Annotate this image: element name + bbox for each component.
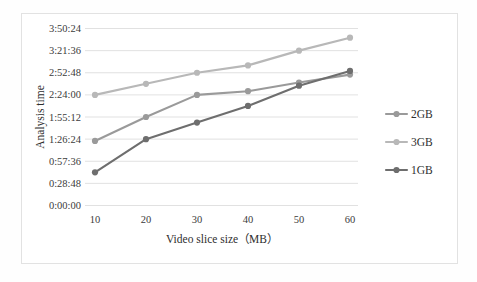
legend-marker-1gb [393,167,399,173]
series-line-2gb [95,75,350,141]
data-point-2gb [143,114,149,120]
x-axis-tick-label: 20 [141,214,152,225]
x-axis-tick-label: 10 [90,214,101,225]
y-axis-tick-label: 3:50:24 [49,23,82,34]
x-axis-title: Video slice size（MB） [166,233,278,245]
y-axis-tick-label: 3:21:36 [49,45,81,56]
line-chart-svg: 3:50:243:21:362:52:482:24:001:55:121:26:… [0,0,477,282]
y-axis-tick-label: 1:26:24 [49,134,82,145]
y-axis-title: Analysis time [34,85,47,149]
data-point-2gb [245,88,251,94]
data-point-3gb [296,48,302,54]
x-axis-tick-label: 40 [243,214,254,225]
data-point-1gb [347,68,353,74]
y-axis-tick-label: 0:00:00 [49,200,81,211]
data-point-1gb [245,103,251,109]
data-point-1gb [92,169,98,175]
data-point-3gb [143,81,149,87]
x-axis-tick-label: 60 [345,214,356,225]
data-point-3gb [92,92,98,98]
legend-label-1gb: 1GB [411,164,433,176]
data-point-1gb [143,136,149,142]
series-lines-group [95,38,350,173]
data-point-1gb [296,83,302,89]
plot-wrapper: 3:50:243:21:362:52:482:24:001:55:121:26:… [0,0,477,282]
data-point-3gb [194,70,200,76]
chart-figure: 3:50:243:21:362:52:482:24:001:55:121:26:… [0,0,477,282]
data-point-1gb [194,119,200,125]
x-axis-tick-label: 50 [294,214,305,225]
x-axis-tick-labels: 102030405060 [90,214,356,225]
y-axis-tick-label: 1:55:12 [49,112,81,123]
legend-marker-3gb [393,139,399,145]
legend-label-2gb: 2GB [411,108,433,120]
data-point-3gb [347,35,353,41]
chart-legend: 2GB3GB1GB [386,108,433,176]
y-axis-tick-label: 0:57:36 [49,156,81,167]
data-point-2gb [92,138,98,144]
series-markers-group [92,35,353,176]
series-line-3gb [95,38,350,95]
gridlines-group [85,29,358,206]
y-axis-tick-labels: 3:50:243:21:362:52:482:24:001:55:121:26:… [49,23,82,211]
legend-marker-2gb [393,111,399,117]
x-axis-tick-label: 30 [192,214,203,225]
y-axis-tick-label: 2:24:00 [49,89,81,100]
y-axis-tick-label: 2:52:48 [49,67,81,78]
legend-label-3gb: 3GB [411,136,433,148]
data-point-2gb [194,92,200,98]
y-axis-tick-label: 0:28:48 [49,178,81,189]
data-point-3gb [245,62,251,68]
